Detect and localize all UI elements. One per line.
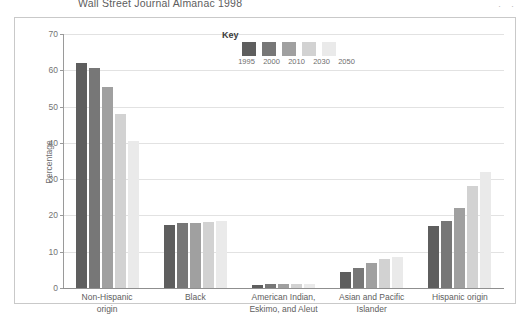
bar[interactable] [454,208,465,288]
bar[interactable] [366,263,377,288]
legend-label: 2010 [287,57,306,66]
legend-title: Key [222,30,368,40]
bar[interactable] [265,284,276,288]
figure-frame: 010203040506070 Percentage Non-Hispanico… [14,17,516,304]
bar[interactable] [353,268,364,288]
bar-group-bars [416,34,504,288]
bar[interactable] [76,63,87,288]
legend-swatch[interactable] [262,42,276,56]
legend-label: 2030 [312,57,331,66]
y-axis-tick-label: 10 [49,247,58,257]
bar[interactable] [480,172,491,288]
bar[interactable] [467,186,478,288]
bar[interactable] [252,285,263,288]
y-axis-tick-mark [60,288,63,289]
x-axis-category-label-line: Hispanic origin [401,292,519,304]
legend-labels: 19952000201020302050 [237,57,368,66]
legend-swatch[interactable] [242,42,256,56]
legend-label: 2050 [337,57,356,66]
x-axis-category-label: Hispanic origin [401,292,519,304]
bar[interactable] [441,221,452,288]
bar-group: Non-Hispanicorigin [63,34,151,288]
bar[interactable] [304,284,315,288]
bar-group: Black [151,34,239,288]
bar[interactable] [102,87,113,288]
y-axis-tick-label: 20 [49,210,58,220]
bar[interactable] [115,114,126,288]
legend-swatch[interactable] [302,42,316,56]
bar-group: Asian and PacificIslander [328,34,416,288]
bar[interactable] [164,225,175,289]
bar-group: American Indian,Eskimo, and Aleut [239,34,327,288]
legend: Key 19952000201020302050 [208,30,368,66]
corner-marks: ·· [498,1,524,11]
bar-group-bars [239,34,327,288]
x-axis-category-label-line: origin [48,304,166,316]
y-axis-title: Percentage [44,140,54,183]
legend-label: 2000 [262,57,281,66]
legend-swatch[interactable] [282,42,296,56]
bar[interactable] [428,226,439,288]
bar[interactable] [392,257,403,288]
bar[interactable] [203,222,214,288]
chart-screenshot: Wall Street Journal Almanac 1998 ·· 0102… [0,0,530,317]
legend-swatch[interactable] [322,42,336,56]
bar[interactable] [278,284,289,288]
bar[interactable] [379,259,390,288]
bar-group-bars [63,34,151,288]
bar[interactable] [216,221,227,288]
legend-swatches [242,42,368,56]
bar-group-bars [328,34,416,288]
y-axis-tick-label: 70 [49,29,58,39]
bar[interactable] [340,272,351,288]
y-axis-tick-label: 50 [49,102,58,112]
bar-group: Hispanic origin [416,34,504,288]
bar[interactable] [291,284,302,288]
plot-area: 010203040506070 Percentage Non-Hispanico… [63,34,504,289]
bar-group-bars [151,34,239,288]
x-axis-line [63,288,504,289]
bar[interactable] [128,141,139,288]
page-title: Wall Street Journal Almanac 1998 [78,0,378,8]
x-axis-category-label-line: Islander [313,304,431,316]
y-axis-tick-label: 60 [49,65,58,75]
bar[interactable] [190,223,201,288]
bar[interactable] [89,68,100,288]
bar[interactable] [177,223,188,288]
legend-label: 1995 [237,57,256,66]
